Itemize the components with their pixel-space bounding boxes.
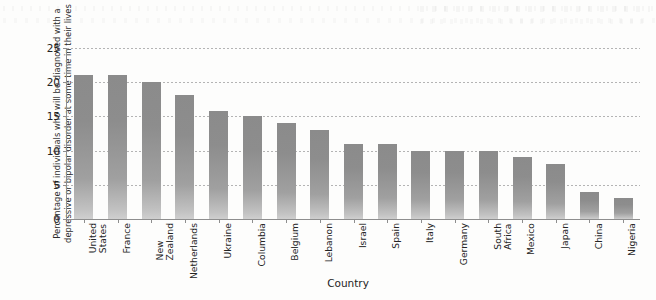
bar-fill (580, 192, 599, 219)
x-axis-tick-label: Belgium (290, 223, 300, 261)
bar (344, 48, 363, 219)
x-axis-tick-label: Italy (425, 223, 435, 243)
x-axis-tick-label: Nigeria (627, 223, 637, 256)
x-axis-tick-mark (286, 220, 287, 223)
x-axis-tick-mark (185, 220, 186, 223)
x-axis-tick-mark (118, 220, 119, 223)
bar (546, 48, 565, 219)
x-axis-tick-mark (387, 220, 388, 223)
bar-fill (344, 144, 363, 219)
y-axis-tick-label: 15 (47, 110, 60, 122)
x-axis-title-text: Country (327, 277, 369, 289)
x-axis-tick-label: Germany (459, 223, 469, 265)
x-axis-tick-mark (84, 220, 85, 223)
bar-fill (142, 82, 161, 219)
bar (277, 48, 296, 219)
y-axis-tick-label: 10 (47, 145, 60, 157)
bar (209, 48, 228, 219)
bar-fill (277, 123, 296, 219)
x-axis-tick-mark (320, 220, 321, 223)
x-axis-tick-mark (219, 220, 220, 223)
bar-fill (479, 151, 498, 219)
bar-series (67, 48, 640, 219)
bar-fill (546, 164, 565, 219)
bar-fill (209, 111, 228, 219)
x-axis-tick-label: Japan (560, 223, 570, 249)
bar-fill (445, 151, 464, 219)
bar-chart: Percentage of individuals who will be di… (0, 0, 656, 300)
y-axis-tick-label: 20 (47, 76, 60, 88)
bar (108, 48, 127, 219)
bar-fill (243, 116, 262, 219)
bar-fill (74, 75, 93, 219)
x-axis-tick-mark (354, 220, 355, 223)
plot-area: 0510152025 United StatesFranceNew Zealan… (66, 48, 640, 219)
x-axis-tick-mark (589, 220, 590, 223)
y-axis-tick-mark (63, 82, 66, 83)
x-axis-tick-label: Mexico (526, 223, 536, 255)
bar (378, 48, 397, 219)
bar (411, 48, 430, 219)
x-axis-tick-mark (556, 220, 557, 223)
x-axis-tick-label: New Zealand (155, 223, 174, 260)
x-axis-tick-label: Ukraine (223, 223, 233, 258)
bar-fill (614, 198, 633, 219)
bar-fill (513, 157, 532, 219)
y-axis-tick-mark (63, 48, 66, 49)
bar (243, 48, 262, 219)
bar (479, 48, 498, 219)
y-axis-tick-label: 5 (53, 179, 60, 191)
x-axis-tick-mark (522, 220, 523, 223)
bar (513, 48, 532, 219)
bar-fill (378, 144, 397, 219)
x-axis-tick-label: Columbia (257, 223, 267, 266)
bar-fill (175, 95, 194, 219)
bar (614, 48, 633, 219)
x-axis-tick-label: Netherlands (189, 223, 199, 279)
x-axis-tick-label: Lebanon (324, 223, 334, 262)
x-axis-tick-label: Israel (358, 223, 368, 248)
y-axis-tick-mark (63, 185, 66, 186)
y-axis-tick-label: 0 (53, 213, 60, 225)
bar (580, 48, 599, 219)
x-axis-tick-mark (421, 220, 422, 223)
bar-fill (108, 75, 127, 219)
x-axis-tick-label: South Africa (493, 223, 512, 250)
y-axis-tick-mark (63, 116, 66, 117)
x-axis-tick-mark (455, 220, 456, 223)
x-axis-tick-label: Spain (391, 223, 401, 249)
x-axis-tick-label: United States (88, 223, 107, 253)
bar-fill (411, 151, 430, 219)
bar (445, 48, 464, 219)
y-axis-tick-label: 25 (47, 42, 60, 54)
x-axis-tick-mark (151, 220, 152, 223)
bar (310, 48, 329, 219)
x-axis-title: Country (0, 277, 656, 289)
bar-fill (310, 130, 329, 219)
x-axis-tick-mark (623, 220, 624, 223)
y-axis-tick-mark (63, 151, 66, 152)
bar (74, 48, 93, 219)
y-axis-tick-mark (63, 219, 66, 220)
bar (142, 48, 161, 219)
x-axis-tick-label: France (122, 223, 132, 254)
x-axis-tick-mark (488, 220, 489, 223)
bar (175, 48, 194, 219)
x-axis-tick-mark (252, 220, 253, 223)
x-axis-tick-label: China (594, 223, 604, 249)
